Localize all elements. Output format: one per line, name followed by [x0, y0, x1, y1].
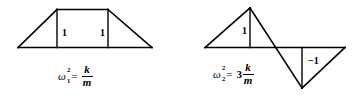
mode-1-shape	[0, 0, 178, 60]
mode-1-denominator: m	[82, 77, 93, 89]
mode-1-omega-symbol: ω 2 1	[58, 71, 66, 82]
mode-2-numerator: k	[244, 62, 252, 74]
mode-1-left-slope	[18, 10, 57, 48]
mode-1-equation: ω 2 1 = k m	[58, 64, 93, 88]
mode-1-omega-subscript: 1	[67, 78, 70, 85]
mode-2-right-slope	[302, 48, 345, 89]
mode-1-amplitude-label-right: 1	[100, 28, 105, 38]
mode-2-omega-superscript: 2	[222, 65, 225, 72]
mode-2-equals-sign: =	[226, 69, 232, 80]
mode-2-omega-subscript: 2	[222, 76, 225, 83]
mode-2-amplitude-label-negative: −1	[308, 56, 319, 66]
mode-2-panel: 1 −1 ω 2 2 = 3 k m	[178, 0, 357, 98]
mode-1-omega-superscript: 2	[67, 67, 70, 74]
mode-1-right-slope	[108, 10, 152, 48]
mode-2-denominator: m	[243, 75, 254, 87]
mode-2-coefficient: 3	[237, 69, 243, 80]
mode-1-panel: 1 1 ω 2 1 = k m	[0, 0, 178, 98]
mode-shape-figure: 1 1 ω 2 1 = k m	[0, 0, 357, 98]
mode-2-shape	[178, 0, 357, 98]
mode-2-omega-symbol: ω 2 2	[213, 69, 221, 80]
mode-1-fraction: k m	[82, 64, 93, 88]
mode-1-amplitude-label-left: 1	[62, 28, 67, 38]
mode-1-equals-sign: =	[71, 71, 77, 82]
mode-2-amplitude-label-positive: 1	[242, 26, 247, 36]
mode-2-equation: ω 2 2 = 3 k m	[213, 62, 254, 86]
mode-2-fraction: 3 k m	[237, 62, 254, 86]
mode-1-numerator: k	[83, 64, 91, 76]
